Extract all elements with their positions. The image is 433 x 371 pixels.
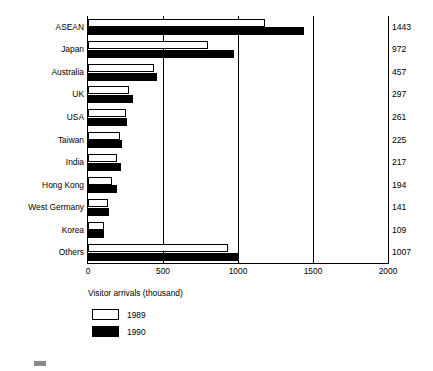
bar-1990-korea — [88, 230, 104, 238]
bar-1989-asean — [88, 19, 265, 27]
page-scan-artifact — [34, 361, 46, 366]
category-label-taiwan: Taiwan — [58, 136, 84, 145]
plot-area — [88, 16, 388, 264]
category-label-korea: Korea — [62, 226, 84, 235]
bar-group — [88, 241, 388, 264]
bar-group — [88, 106, 388, 129]
x-tick-label-2000: 2000 — [379, 266, 398, 276]
value-label-uk: 297 — [392, 90, 406, 99]
value-label-india: 217 — [392, 158, 406, 167]
category-label-asean: ASEAN — [56, 23, 84, 32]
value-label-others: 1007 — [392, 248, 411, 257]
bar-1990-uk — [88, 95, 133, 103]
bar-group — [88, 129, 388, 152]
value-label-west-germany: 141 — [392, 203, 406, 212]
x-tick-label-1000: 1000 — [229, 266, 248, 276]
bar-1990-japan — [88, 50, 234, 58]
value-label-column: 14439724572972612252171941411091007 — [392, 16, 433, 264]
bar-group — [88, 16, 388, 39]
bar-1989-west-germany — [88, 199, 108, 207]
bar-group — [88, 196, 388, 219]
bar-1990-taiwan — [88, 140, 122, 148]
value-label-japan: 972 — [392, 45, 406, 54]
legend-label-1990: 1990 — [127, 327, 146, 337]
bar-1990-hong-kong — [88, 185, 117, 193]
bar-1990-australia — [88, 73, 157, 81]
category-label-japan: Japan — [61, 45, 84, 54]
bar-1989-others — [88, 244, 228, 252]
value-label-usa: 261 — [392, 113, 406, 122]
bar-group — [88, 174, 388, 197]
category-label-uk: UK — [72, 90, 84, 99]
value-label-taiwan: 225 — [392, 136, 406, 145]
bar-1989-india — [88, 154, 117, 162]
category-label-others: Others — [59, 248, 84, 257]
bar-1990-west-germany — [88, 208, 109, 216]
bar-1989-korea — [88, 222, 104, 230]
x-tick-label-500: 500 — [156, 266, 170, 276]
bar-group — [88, 61, 388, 84]
bar-1989-usa — [88, 109, 126, 117]
bar-1990-usa — [88, 118, 127, 126]
value-label-asean: 1443 — [392, 23, 411, 32]
bar-1990-others — [88, 253, 239, 261]
value-label-hong-kong: 194 — [392, 181, 406, 190]
bar-group — [88, 151, 388, 174]
category-label-west-germany: West Germany — [28, 203, 84, 212]
category-label-india: India — [66, 158, 84, 167]
legend-label-1989: 1989 — [127, 310, 146, 320]
category-axis: ASEANJapanAustraliaUKUSATaiwanIndiaHong … — [0, 16, 84, 264]
bar-group — [88, 39, 388, 62]
visitor-arrivals-bar-chart: ASEANJapanAustraliaUKUSATaiwanIndiaHong … — [0, 0, 433, 371]
bar-1990-india — [88, 163, 121, 171]
legend-swatch-1990 — [92, 326, 119, 337]
x-tick-label-0: 0 — [86, 266, 91, 276]
bar-1989-japan — [88, 41, 208, 49]
bar-1989-taiwan — [88, 132, 120, 140]
bar-1989-uk — [88, 86, 129, 94]
bar-1990-asean — [88, 27, 304, 35]
bar-1989-hong-kong — [88, 177, 112, 185]
bar-group — [88, 84, 388, 107]
bar-group — [88, 219, 388, 242]
category-label-australia: Australia — [51, 68, 84, 77]
category-label-hong-kong: Hong Kong — [42, 181, 84, 190]
x-tick-label-1500: 1500 — [304, 266, 323, 276]
gridline-2000 — [388, 16, 389, 264]
value-label-korea: 109 — [392, 226, 406, 235]
bar-1989-australia — [88, 64, 154, 72]
category-label-usa: USA — [67, 113, 84, 122]
value-label-australia: 457 — [392, 68, 406, 77]
x-axis-title: Visitor arrivals (thousand) — [88, 288, 183, 298]
legend-swatch-1989 — [92, 309, 119, 320]
